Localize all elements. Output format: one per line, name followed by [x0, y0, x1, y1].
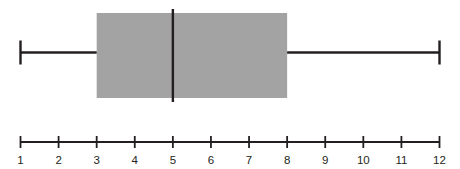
axis-tick-label: 11 — [395, 154, 407, 166]
box-iqr-rect — [97, 13, 287, 98]
axis-tick-label: 12 — [433, 154, 446, 166]
axis-tick-label: 3 — [93, 154, 99, 166]
axis-tick-label: 7 — [246, 154, 252, 166]
axis-tick-label: 9 — [322, 154, 328, 166]
axis-tick-label: 5 — [170, 154, 176, 166]
axis-tick-label: 2 — [55, 154, 61, 166]
axis-tick-label: 1 — [17, 154, 23, 166]
axis-tick-label: 6 — [208, 154, 214, 166]
axis-tick-label: 8 — [284, 154, 290, 166]
box-plot-canvas: 1 2 3 4 5 6 7 8 9 10 11 12 — [0, 0, 460, 169]
axis-tick-label: 4 — [132, 154, 139, 166]
box-plot-figure: 1 2 3 4 5 6 7 8 9 10 11 12 — [0, 0, 460, 169]
axis-tick-label: 10 — [357, 154, 370, 166]
axis-tick-labels: 1 2 3 4 5 6 7 8 9 10 11 12 — [17, 154, 446, 166]
